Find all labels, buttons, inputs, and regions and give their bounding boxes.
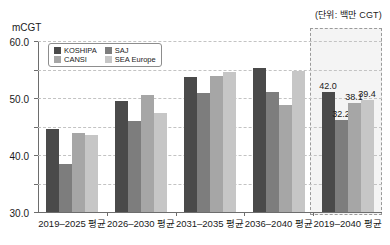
legend-swatch-icon [105,47,112,54]
x-axis-label: 2031–2035 평균 [176,216,244,230]
legend-item[interactable]: SAJ [105,47,156,55]
legend-label: SEA Europe [115,56,156,64]
legend-swatch-icon [54,47,61,54]
x-axis-label: 2019–2025 평균 [38,216,106,230]
legend-label: KOSHIPA [64,47,97,55]
bar[interactable] [85,135,98,212]
bar-group [244,41,313,212]
bar[interactable] [292,71,305,212]
bar-value-label: 39.4 [358,89,376,99]
bar[interactable] [210,76,223,212]
legend-swatch-icon [105,56,112,63]
bar-chart: (단위: 백만 CGT) mCGT 0.010.020.030.040.050.… [0,0,390,245]
bar[interactable]: 38.1 [348,103,361,212]
bar[interactable] [154,113,167,212]
bar[interactable] [72,133,85,212]
x-axis-label: 2019–2040 평균 [313,216,381,230]
x-axis-label: 2026–2030 평균 [107,216,175,230]
bar[interactable] [128,121,141,212]
bars-row: 42.032.238.139.4 [313,41,382,212]
bar[interactable] [253,68,266,212]
bar[interactable]: 32.2 [335,120,348,212]
bar[interactable] [59,164,72,212]
x-axis-labels: 2019–2025 평균2026–2030 평균2031–2035 평균2036… [38,216,382,236]
bars-row [244,41,313,212]
y-tick-label: 30.0 [10,208,29,219]
bar-value-label: 42.0 [319,81,337,91]
y-tick-label: 50.0 [10,94,29,105]
bar-group [176,41,245,212]
legend-label: SAJ [115,47,129,55]
y-tick-label: 40.0 [10,151,29,162]
bar[interactable] [184,77,197,212]
bar-group: 42.032.238.139.4 [313,41,382,212]
x-axis-label: 2036–2040 평균 [245,216,313,230]
legend-item[interactable]: SEA Europe [105,56,156,64]
y-tick-label: 60.0 [10,37,29,48]
legend-item[interactable]: KOSHIPA [54,47,97,55]
bar[interactable] [141,95,154,212]
bars-row [176,41,245,212]
bar[interactable] [46,129,59,212]
bar[interactable]: 39.4 [361,100,374,212]
legend-label: CANSI [64,56,87,64]
chart-legend: KOSHIPASAJCANSISEA Europe [48,43,162,67]
legend-item[interactable]: CANSI [54,56,97,64]
gridline [38,212,382,213]
bar[interactable] [197,93,210,212]
legend-swatch-icon [54,56,61,63]
y-axis-title: mCGT [12,22,41,33]
bar[interactable] [266,92,279,212]
bar[interactable] [223,72,236,212]
y-tick-mark: 0.0 [34,212,38,213]
unit-note: (단위: 백만 CGT) [315,8,382,21]
bar[interactable] [279,105,292,212]
bar[interactable] [115,101,128,212]
